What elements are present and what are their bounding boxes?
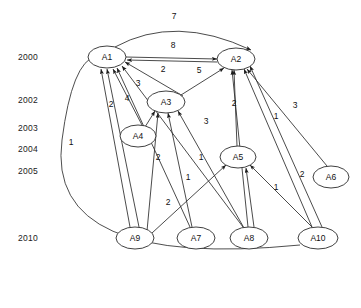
edge-weight-A9-A1: 4	[125, 93, 130, 103]
node-A1[interactable]: A1	[88, 46, 126, 68]
edge-A7-to-A1	[117, 68, 190, 227]
year-label-2010: 2010	[18, 233, 38, 243]
diagram-canvas: A1A2A3A4A5A6A9A7A8A10 782532421321113212…	[0, 0, 361, 308]
node-A3[interactable]: A3	[147, 91, 185, 113]
edge-A3-to-A1	[125, 62, 183, 96]
year-label-2003: 2003	[18, 123, 38, 133]
node-A7[interactable]: A7	[177, 227, 215, 249]
edge-A4-to-A3	[145, 111, 155, 127]
node-A4[interactable]: A4	[120, 125, 156, 147]
edge-weight-A4-A1: 3	[136, 78, 141, 88]
edge-A5-to-A2	[234, 70, 237, 146]
year-label-2005: 2005	[18, 166, 38, 176]
graph-svg: A1A2A3A4A5A6A9A7A8A10 782532421321113212	[0, 0, 361, 308]
edge-weight-A3-A1: 2	[161, 64, 166, 74]
edge-weight-A8-A1: 3	[204, 116, 209, 126]
year-label-2000: 2000	[18, 52, 38, 62]
node-label-A1: A1	[102, 52, 113, 62]
edge-weight-A5-A2: 1	[199, 152, 204, 162]
edge-weight-A10-A1: 1	[69, 137, 74, 147]
node-label-A8: A8	[244, 233, 255, 243]
edge-A2-to-A1	[127, 60, 217, 62]
enclosing-arc-layer	[61, 56, 300, 249]
year-label-2002: 2002	[18, 95, 38, 105]
node-label-A3: A3	[161, 97, 172, 107]
edge-weight-A9-A3: 2	[156, 152, 161, 162]
edge-weight-A8-A2: 2	[232, 98, 237, 108]
edge-weight-A9-A5: 2	[166, 197, 171, 207]
node-label-A6: A6	[326, 172, 337, 182]
edge-A3-to-A2	[181, 68, 224, 95]
edge-weight-A3-A2: 5	[197, 65, 202, 75]
node-label-A2: A2	[231, 54, 242, 64]
edge-A6-to-A2	[247, 69, 327, 166]
node-label-A5: A5	[233, 152, 244, 162]
year-label-2004: 2004	[18, 144, 38, 154]
node-label-A10: A10	[310, 233, 325, 243]
edge-weight-A7-A3: 1	[186, 172, 191, 182]
edge-weight-A1-A2: 8	[171, 40, 176, 50]
node-A5[interactable]: A5	[220, 146, 256, 168]
node-label-A9: A9	[130, 233, 141, 243]
edge-A8-to-A3	[178, 111, 244, 228]
edge-A1-to-A2	[126, 57, 217, 59]
node-A9[interactable]: A9	[116, 227, 154, 249]
edge-weight-A9-A1: 2	[109, 99, 114, 109]
edge-weight-A8-A5: 1	[274, 182, 279, 192]
edge-A1-to-A2	[115, 31, 251, 50]
node-A2[interactable]: A2	[217, 48, 255, 70]
edge-weight-A1-A2: 7	[172, 11, 177, 21]
node-A10[interactable]: A10	[298, 227, 338, 249]
node-A8[interactable]: A8	[230, 227, 268, 249]
node-label-A7: A7	[191, 233, 202, 243]
node-label-A4: A4	[133, 131, 144, 141]
node-A6[interactable]: A6	[313, 166, 349, 188]
edge-A9-to-A1	[107, 69, 139, 227]
edge-weight-A10-A5: 2	[300, 169, 305, 179]
edge-weight-A10-A2: 3	[293, 100, 298, 110]
edge-weight-A10-A2: 1	[274, 111, 279, 121]
nodes-layer: A1A2A3A4A5A6A9A7A8A10	[88, 46, 349, 249]
edge-A10-to-A1	[61, 56, 300, 249]
edge-A10-to-A2	[244, 69, 312, 227]
